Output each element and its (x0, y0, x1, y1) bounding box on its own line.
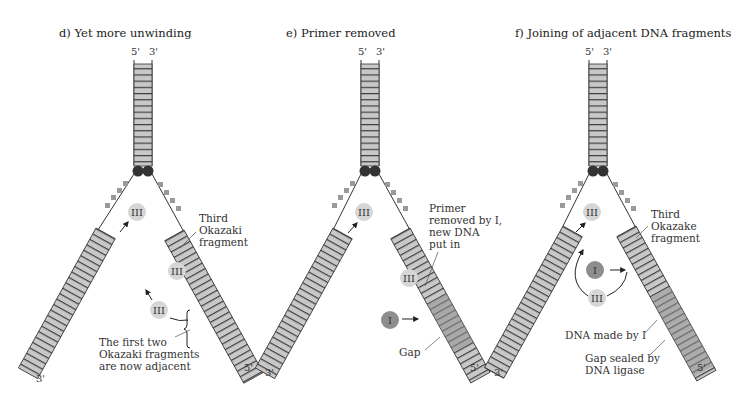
bottom-5-prime-label: 5' (244, 362, 253, 373)
top-5-prime-label: 5' (585, 46, 594, 57)
bracket-icon (184, 310, 190, 348)
panel-e-title: e) Primer removed (286, 26, 396, 40)
helicase-icon (360, 166, 381, 177)
bottom-3-prime-label: 3' (494, 367, 503, 378)
pol-iii-leading: III (355, 203, 373, 221)
panel-d: d) Yet more unwinding 5' 3' 3' (18, 26, 263, 384)
label-third-fragment-1: Third (651, 208, 680, 220)
svg-text:III: III (591, 293, 603, 304)
svg-text:III: III (171, 266, 183, 277)
label-dna-made-by-i: DNA made by I (565, 329, 646, 341)
svg-text:I: I (388, 315, 392, 326)
label-gap-sealed-1: Gap sealed by (585, 352, 660, 364)
label-adjacent-1: The first two (99, 336, 167, 348)
panel-f: f) Joining of adjacent DNA fragments 5' … (484, 26, 731, 381)
helicase-icon (133, 166, 154, 177)
label-third-fragment-2: Okazaki (199, 224, 242, 236)
label-third-fragment-3: fragment (199, 236, 249, 248)
pol-iii-released: III (150, 301, 168, 319)
pol-iii-recycled: III (588, 289, 606, 307)
panel-e: e) Primer removed 5' 3' 3' 5' III (255, 26, 502, 383)
label-primer-removed-3: new DNA (429, 226, 480, 238)
label-primer-removed-4: put in (429, 238, 460, 250)
top-3-prime-label: 3' (603, 46, 612, 57)
pol-iii-leading: III (583, 203, 601, 221)
svg-text:III: III (358, 207, 370, 218)
label-primer-removed-1: Primer (429, 202, 467, 214)
recycle-arrow-icon (575, 250, 588, 296)
pol-i: I (586, 261, 604, 279)
bottom-3-prime-label: 3' (36, 373, 45, 384)
svg-text:III: III (131, 207, 143, 218)
replication-fork-diagram: d) Yet more unwinding 5' 3' 3' (0, 0, 740, 399)
svg-text:III: III (403, 273, 415, 284)
top-5-prime-label: 5' (131, 46, 140, 57)
label-adjacent-2: Okazaki fragments (99, 348, 200, 360)
svg-text:I: I (593, 265, 597, 276)
label-third-fragment-1: Third (199, 212, 228, 224)
label-third-fragment-3: fragment (651, 232, 701, 244)
bottom-5-prime-label: 5' (697, 362, 706, 373)
leading-strand (255, 228, 352, 379)
pol-iii-leading: III (128, 203, 146, 221)
helicase-icon (588, 166, 609, 177)
leading-strand (484, 226, 582, 378)
label-adjacent-3: are now adjacent (99, 360, 192, 372)
new-dna-region (427, 294, 473, 353)
label-primer-removed-2: removed by I, (429, 214, 502, 226)
top-3-prime-label: 3' (149, 46, 158, 57)
label-third-fragment-2: Okazake (651, 220, 697, 232)
bottom-3-prime-label: 3' (265, 367, 274, 378)
label-gap: Gap (399, 346, 421, 358)
svg-text:III: III (586, 207, 598, 218)
top-3-prime-label: 3' (376, 46, 385, 57)
top-5-prime-label: 5' (358, 46, 367, 57)
pol-iii-lagging: III (168, 262, 186, 280)
panel-d-title: d) Yet more unwinding (59, 26, 192, 40)
parental-duplex (361, 60, 379, 166)
pol-iii-lagging: III (400, 269, 418, 287)
pol-i: I (381, 311, 399, 329)
parental-duplex (134, 60, 152, 166)
label-gap-sealed-2: DNA ligase (585, 364, 645, 376)
bottom-5-prime-label: 5' (470, 362, 479, 373)
panel-f-title: f) Joining of adjacent DNA fragments (515, 26, 731, 40)
svg-text:III: III (153, 305, 165, 316)
parental-duplex (589, 60, 607, 166)
lagging-strand (391, 228, 490, 383)
